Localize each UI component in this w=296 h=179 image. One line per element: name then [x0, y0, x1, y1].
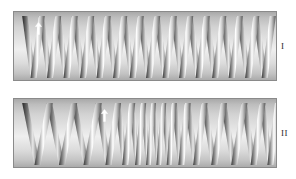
spring-panel-row-1: I	[0, 11, 277, 81]
spring-panel-row-2: II	[0, 98, 277, 168]
panel-label-2: II	[281, 129, 288, 138]
spring-panel-1	[13, 11, 277, 81]
spring-coil-graphic-uniform	[14, 12, 277, 81]
spring-coil-graphic-variable	[14, 99, 277, 168]
panel-label-1: I	[281, 42, 285, 51]
spring-comparison-figure: I II	[0, 0, 296, 179]
spring-panel-2	[13, 98, 277, 168]
